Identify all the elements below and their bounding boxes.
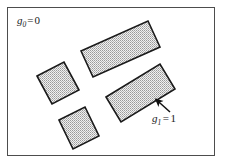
background-label-equals: = <box>27 14 33 26</box>
diagram-canvas: g0=0 g1=1 <box>0 0 226 167</box>
foreground-label-equals: = <box>163 112 169 124</box>
image-frame <box>8 8 215 156</box>
figure-container: g0=0 g1=1 <box>0 0 226 167</box>
background-label-subscript: 0 <box>23 20 27 29</box>
background-label-value: 0 <box>34 14 40 26</box>
foreground-label-value: 1 <box>170 112 176 124</box>
foreground-label-subscript: 1 <box>158 118 162 127</box>
